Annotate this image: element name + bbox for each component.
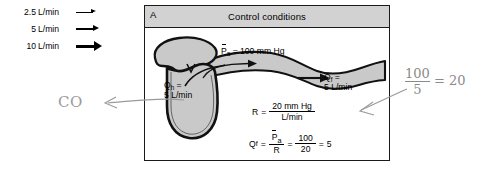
qf-value: 5 L/min xyxy=(324,82,352,92)
flow-eq-den-symbolic: R xyxy=(269,144,285,155)
handwritten-numerator: 100 xyxy=(405,66,430,81)
resistance-equals: = xyxy=(258,107,269,117)
flow-legend: 2.5 L/min 5 L/min 10 L/min xyxy=(0,4,140,56)
legend-value: 2.5 xyxy=(0,4,36,20)
figure-root: 2.5 L/min 5 L/min 10 L/min A Control con… xyxy=(0,0,481,176)
legend-value: 5 xyxy=(0,21,36,37)
flow-eq-num-symbolic: Pa xyxy=(269,132,285,145)
artery-vessel-shape xyxy=(207,52,385,89)
legend-unit: L/min xyxy=(38,38,59,54)
flow-eq-result: 5 xyxy=(327,139,332,149)
flow-eq-equals-1: = xyxy=(258,139,269,149)
qf-equals: = xyxy=(335,72,340,82)
panel-a: A Control conditions xyxy=(144,5,390,161)
handwritten-co-arrow xyxy=(88,88,188,118)
flow-eq-equals-2: = xyxy=(284,139,295,149)
resistance-equation: R = 20 mm Hg L/min xyxy=(252,101,315,122)
flow-eq-symbol: Q xyxy=(249,139,256,149)
flow-eq-fraction-symbolic: Pa R xyxy=(269,132,285,156)
flow-equation: Qf = Pa R = 100 20 = 5 xyxy=(249,132,332,156)
handwritten-calculation: 100 5 = 20 xyxy=(405,66,466,97)
handwritten-fraction: 100 5 xyxy=(405,66,430,97)
legend-unit: L/min xyxy=(38,21,59,37)
flow-eq-equals-3: = xyxy=(316,139,327,149)
flow-eq-num-numeric: 100 xyxy=(295,133,315,143)
handwritten-calc-arrow xyxy=(355,85,411,125)
outflow-label: Qf = 5 L/min xyxy=(324,72,352,92)
pressure-subscript: a xyxy=(227,50,231,57)
resistance-fraction: 20 mm Hg L/min xyxy=(269,101,315,122)
resistance-denominator: L/min xyxy=(269,111,315,122)
legend-unit: L/min xyxy=(38,4,59,20)
flow-eq-fraction-numeric: 100 20 xyxy=(295,133,315,154)
qf-symbol: Q xyxy=(324,72,331,82)
panel-title: Control conditions xyxy=(228,11,306,22)
handwritten-co-label: CO xyxy=(58,93,83,111)
handwritten-denominator: 5 xyxy=(405,81,430,97)
panel-header: A Control conditions xyxy=(145,6,389,28)
arterial-pressure-label: Pa = 100 mm Hg xyxy=(221,46,284,56)
pressure-value: = 100 mm Hg xyxy=(233,46,285,56)
legend-value: 10 xyxy=(0,38,36,54)
flow-eq-den-numeric: 20 xyxy=(295,143,315,154)
panel-letter: A xyxy=(150,9,156,20)
handwritten-result: = 20 xyxy=(434,73,466,88)
p-bar-symbol: P xyxy=(221,46,227,56)
resistance-numerator: 20 mm Hg xyxy=(269,101,315,111)
